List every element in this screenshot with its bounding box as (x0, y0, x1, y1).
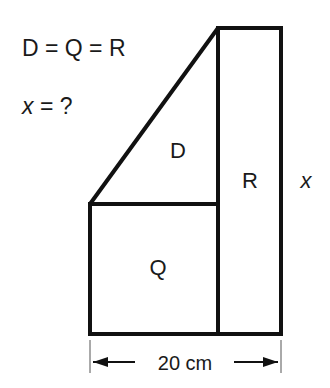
question-rest: = ? (34, 93, 73, 119)
label-r: R (242, 168, 258, 193)
label-q: Q (149, 255, 166, 280)
arrow-right-icon (263, 357, 278, 367)
label-x: x (300, 168, 313, 193)
geometry-figure: D = Q = R x = ? D Q R x 20 cm (0, 0, 330, 388)
arrow-left-icon (93, 357, 108, 367)
question-text: x = ? (21, 93, 73, 119)
condition-text: D = Q = R (22, 35, 126, 61)
dimension-label: 20 cm (158, 352, 212, 374)
label-d: D (170, 138, 186, 163)
